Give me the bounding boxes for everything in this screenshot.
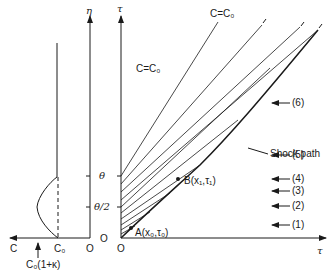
eta-axis-label: η (86, 6, 92, 16)
point-b-label: B(x₁,τ₁) (184, 176, 216, 186)
concentration-profile (37, 43, 58, 238)
arrow-5-label: (5) (292, 150, 304, 160)
point-a (129, 226, 133, 230)
left-origin-label: O (86, 244, 94, 254)
arrow-6-label: (6) (292, 98, 304, 108)
c-axis-label: C (10, 244, 17, 254)
tau-vertical-label: τ (117, 4, 123, 14)
arrow-1-label: (1) (292, 220, 304, 230)
theta-half-label: θ/2 (94, 202, 110, 212)
c0-tick-label: C₀ (54, 244, 65, 254)
point-b (176, 177, 180, 181)
arrow-2-label: (2) (292, 201, 304, 211)
eta-origin-label: O (100, 234, 108, 244)
arrow-4-label: (4) (292, 174, 304, 184)
point-a-label: A(x₀,τ₀) (135, 228, 168, 238)
arrow-3-label: (3) (292, 186, 304, 196)
theta-label: θ (99, 171, 105, 181)
region-label: C=C₀ (136, 64, 160, 74)
shock-leader (248, 148, 268, 154)
tau-horizontal-label: τ (317, 246, 323, 256)
line-label: C=C₀ (210, 9, 234, 19)
diagram: η C C₀ O C₀(1+κ) θ θ/2 O τ τ O C=C₀ C=C₀… (0, 0, 334, 275)
region-arrows (272, 103, 290, 225)
characteristic-lines (121, 22, 318, 234)
shock-path (121, 30, 318, 238)
max-concentration-label: C₀(1+κ) (26, 260, 60, 270)
right-origin-label: O (117, 244, 125, 254)
